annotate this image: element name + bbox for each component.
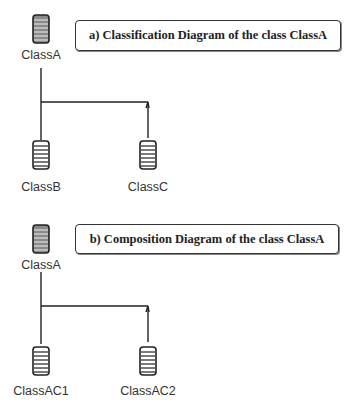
class-icon (139, 346, 157, 376)
class-icon (32, 140, 50, 170)
class-node-classa-composition[interactable]: ClassA (11, 224, 71, 272)
diagram-b-title: b) Composition Diagram of the class Clas… (90, 232, 325, 247)
class-icon (32, 224, 50, 254)
class-icon (32, 14, 50, 44)
diagram-a-title: a) Classification Diagram of the class C… (89, 28, 327, 43)
class-label: ClassB (11, 180, 71, 194)
diagram-canvas: a) Classification Diagram of the class C… (0, 0, 354, 416)
class-label: ClassA (11, 48, 71, 62)
class-icon (139, 140, 157, 170)
diagram-a-title-box: a) Classification Diagram of the class C… (75, 20, 341, 51)
diagram-b-title-box: b) Composition Diagram of the class Clas… (75, 224, 339, 254)
class-icon (32, 346, 50, 376)
class-node-classa[interactable]: ClassA (11, 14, 71, 62)
class-node-classac1[interactable]: ClassAC1 (11, 346, 71, 398)
class-label: ClassAC1 (11, 384, 71, 398)
diagram-a-connectors (41, 68, 149, 140)
class-label: ClassC (118, 180, 178, 194)
class-node-classc[interactable]: ClassC (118, 140, 178, 194)
class-node-classb[interactable]: ClassB (11, 140, 71, 194)
class-label: ClassAC2 (118, 384, 178, 398)
class-label: ClassA (11, 258, 71, 272)
diagram-b-connectors (41, 272, 149, 344)
class-node-classac2[interactable]: ClassAC2 (118, 346, 178, 398)
